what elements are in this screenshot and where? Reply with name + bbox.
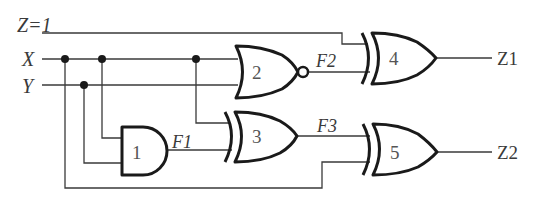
input-label-y: Y xyxy=(22,76,33,96)
gate-3-xor-back xyxy=(225,112,232,162)
nor-bubble xyxy=(298,67,308,77)
gate-4-xor xyxy=(372,33,436,84)
output-label-z2: Z2 xyxy=(497,143,518,162)
gate-3-xor xyxy=(235,112,297,162)
output-label-z1: Z1 xyxy=(497,49,518,68)
signal-label-f1: F1 xyxy=(172,133,192,151)
gate-4-xor-back xyxy=(362,33,369,84)
junction-dot xyxy=(192,55,200,63)
gate-5-label: 5 xyxy=(390,143,400,162)
input-label-x: X xyxy=(22,49,34,69)
input-label-z: Z=1 xyxy=(17,15,52,35)
gate-3-label: 3 xyxy=(252,127,262,146)
gate-5-xor-back xyxy=(363,124,370,175)
wire-x-to-gate1 xyxy=(102,59,122,138)
circuit-drawing xyxy=(0,0,539,198)
gate-1-label: 1 xyxy=(132,143,142,162)
signal-label-f3: F3 xyxy=(317,117,337,135)
junction-dot xyxy=(98,55,106,63)
signal-label-f2: F2 xyxy=(316,52,336,70)
gate-5-xor xyxy=(373,124,437,175)
wire-y-to-gate1 xyxy=(84,85,122,163)
junction-dot xyxy=(61,55,69,63)
gate-2-label: 2 xyxy=(252,63,262,82)
junction-dot xyxy=(80,81,88,89)
gate-4-label: 4 xyxy=(389,49,399,68)
wire-z xyxy=(42,33,368,44)
gate-1-and xyxy=(122,127,167,175)
logic-circuit-diagram: Z=1 X Y 1 2 3 4 5 F1 F2 F3 Z1 Z2 xyxy=(0,0,539,198)
gate-2-nor xyxy=(236,46,298,98)
